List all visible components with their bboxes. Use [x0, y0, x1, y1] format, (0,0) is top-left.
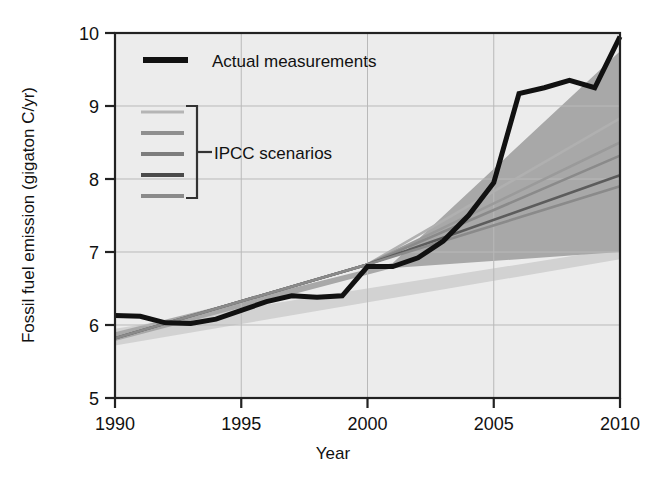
y-tick-label: 8	[89, 170, 99, 190]
y-tick-label: 9	[89, 97, 99, 117]
legend-scenarios-label: IPCC scenarios	[214, 144, 332, 163]
x-tick-label: 1995	[221, 414, 261, 434]
y-tick-label: 10	[79, 24, 99, 44]
x-tick-label: 2005	[474, 414, 514, 434]
x-tick-label: 2010	[600, 414, 640, 434]
x-axis-tick-labels: 19901995200020052010	[95, 414, 640, 434]
emissions-line-chart: 5678910 19901995200020052010 Year Fossil…	[0, 0, 668, 477]
y-axis-title: Fossil fuel emission (gigaton C/yr)	[19, 87, 38, 343]
legend-actual-label: Actual measurements	[212, 52, 376, 71]
y-axis-tick-labels: 5678910	[79, 24, 99, 409]
y-tick-label: 5	[89, 389, 99, 409]
y-tick-label: 7	[89, 243, 99, 263]
chart-figure: 5678910 19901995200020052010 Year Fossil…	[0, 0, 668, 477]
x-axis-title: Year	[316, 444, 351, 463]
y-axis-ticks	[105, 33, 115, 398]
x-axis-ticks	[115, 398, 620, 408]
x-tick-label: 2000	[347, 414, 387, 434]
x-tick-label: 1990	[95, 414, 135, 434]
y-tick-label: 6	[89, 316, 99, 336]
